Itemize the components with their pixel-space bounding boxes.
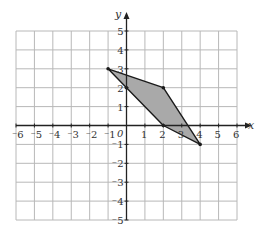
origin-label: 0 [117, 128, 124, 139]
x-tick-label: 6 [233, 129, 239, 140]
x-tick-label: ⁻4 [49, 129, 61, 140]
y-tick-label: 3 [117, 64, 123, 75]
x-tick-label: ⁻2 [86, 129, 98, 140]
y-tick-label: 1 [117, 102, 123, 113]
axes [16, 12, 252, 220]
x-tick-label: 1 [141, 129, 147, 140]
coordinate-plane: ⁻6⁻5⁻4⁻3⁻2⁻1123456 54321⁻1⁻2⁻3⁻4⁻5 x y 0 [0, 0, 265, 230]
y-axis-label: y [114, 8, 122, 21]
x-tick-label: ⁻1 [104, 129, 116, 140]
y-tick-label: ⁻4 [112, 196, 124, 207]
y-axis-arrow-icon [124, 12, 130, 19]
vertex-dot [198, 143, 202, 147]
y-tick-label: ⁻2 [112, 158, 124, 169]
x-tick-label: ⁻5 [30, 129, 42, 140]
x-tick-label: 4 [196, 129, 202, 140]
vertex-dot [162, 86, 166, 90]
x-tick-label: 2 [159, 129, 165, 140]
vertex-dot [106, 67, 110, 71]
y-tick-label: ⁻5 [112, 215, 124, 226]
x-tick-label: 3 [178, 129, 184, 140]
x-axis-label: x [248, 119, 255, 132]
y-tick-label: ⁻3 [112, 177, 124, 188]
y-tick-label: 2 [117, 83, 123, 94]
y-tick-label: ⁻1 [112, 139, 124, 150]
x-tick-label: ⁻6 [12, 129, 24, 140]
y-tick-label: 5 [117, 26, 123, 37]
y-tick-label: 4 [117, 45, 123, 56]
x-tick-label: 5 [215, 129, 221, 140]
x-tick-label: ⁻3 [67, 129, 79, 140]
